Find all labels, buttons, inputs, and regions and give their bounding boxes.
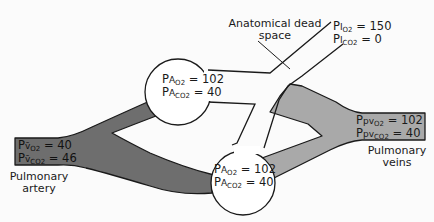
pulmonary-artery-label: Pulmonary artery: [8, 171, 70, 195]
inspired-pco2: PICO2 = 0: [333, 33, 382, 50]
pulmonary-artery-label-line2: artery: [8, 183, 70, 195]
dead-space-label: Anatomical dead space: [222, 18, 328, 42]
dead-space-label-line2: space: [222, 30, 328, 42]
pulmonary-veins-label: Pulmonary veins: [365, 145, 429, 169]
alveolar-lower-pco2: PACO2 = 40: [214, 176, 274, 193]
pulmonary-veins-label-line2: veins: [365, 157, 429, 169]
pulmonary-venous-pco2: PpvCO2 = 40: [356, 127, 420, 144]
dead-space-pointer: [258, 41, 290, 69]
airway-inner-wall: [208, 102, 255, 145]
mixed-venous-pco2: Pv̄CO2 = 46: [18, 152, 77, 169]
alveolar-upper-pco2: PACO2 = 40: [162, 86, 222, 103]
